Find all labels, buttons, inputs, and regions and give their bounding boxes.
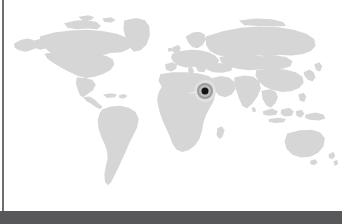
left-edge-rule xyxy=(2,0,4,211)
landmass-india xyxy=(234,75,260,108)
landmass-indonesia-sulawesi xyxy=(296,110,305,118)
landmass-australia xyxy=(285,130,325,158)
marker-center-dot xyxy=(201,88,208,95)
landmass-canadian-arctic xyxy=(64,20,101,29)
landmass-ireland xyxy=(168,48,173,52)
landmass-caribbean-a xyxy=(103,93,117,98)
landmass-new-guinea xyxy=(305,112,325,120)
landmass-indonesia-java xyxy=(269,118,286,123)
location-marker[interactable] xyxy=(192,78,218,104)
landmass-mexico xyxy=(76,77,96,97)
landmass-russia xyxy=(206,27,316,57)
landmass-philippines xyxy=(298,93,306,102)
landmass-caribbean-b xyxy=(119,94,128,99)
landmass-iberia xyxy=(165,62,177,71)
landmass-tasmania xyxy=(310,159,317,165)
landmass-south-america xyxy=(98,106,139,185)
landmass-madagascar xyxy=(217,126,225,139)
landmass-indonesia-borneo xyxy=(281,108,294,117)
landmass-new-zealand-b xyxy=(333,160,338,166)
landmass-sri-lanka xyxy=(252,107,257,112)
landmass-southeast-asia xyxy=(261,89,278,108)
world-map-graphic[interactable] xyxy=(8,12,338,202)
landmass-china-mongolia xyxy=(256,69,304,92)
landmass-korea-japan-a xyxy=(304,69,316,81)
landmass-japan xyxy=(314,62,322,71)
landmass-usa xyxy=(44,52,114,78)
landmass-arctic-isle-b xyxy=(102,17,115,22)
landmass-scandinavia xyxy=(186,32,206,49)
bottom-chrome-band xyxy=(0,211,342,224)
landmass-arctic-isle-a xyxy=(79,15,95,20)
world-map-panel[interactable] xyxy=(0,0,342,211)
landmass-new-zealand-a xyxy=(329,152,336,159)
landmass-central-america xyxy=(83,97,102,110)
landmass-siberia-north xyxy=(239,19,286,27)
landmass-indonesia-sumatra xyxy=(263,108,278,115)
screenshot-viewport xyxy=(0,0,342,224)
